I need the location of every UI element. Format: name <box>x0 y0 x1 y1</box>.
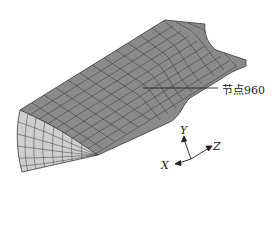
y-axis-label: Y <box>180 124 187 137</box>
x-axis-label: X <box>161 159 169 172</box>
z-axis-arrow <box>191 148 209 159</box>
z-axis-label: Z <box>213 140 221 153</box>
node-label: 节点960 <box>222 81 265 97</box>
axes-triad <box>175 136 212 166</box>
y-axis-arrow <box>184 139 191 159</box>
